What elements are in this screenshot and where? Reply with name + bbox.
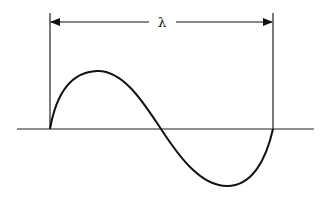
wavelength-label: λ	[158, 15, 166, 30]
wavelength-diagram: λ	[0, 0, 328, 198]
